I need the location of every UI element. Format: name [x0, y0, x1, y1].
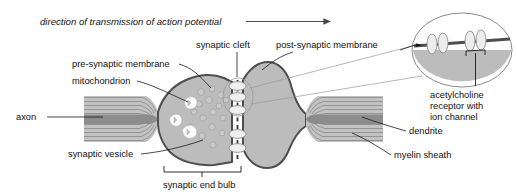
diagram-canvas: direction of transmission of action pote…: [0, 0, 517, 196]
inset-receptor-1: [427, 34, 437, 54]
dendrite-core: [306, 115, 383, 125]
cleft-receptor-2: [229, 93, 246, 102]
inset-receptor-4: [476, 30, 486, 50]
label-axon: axon: [16, 112, 36, 122]
label-pre-synaptic-membrane: pre-synaptic membrane: [72, 59, 170, 69]
cleft-receptor-4: [229, 130, 246, 139]
cleft-receptor-5: [229, 144, 246, 153]
label-mitochondrion: mitochondrion: [72, 76, 130, 86]
mitochondrion-1: [184, 97, 197, 109]
axon-structure: [84, 96, 158, 142]
inset-receptor-3: [465, 31, 475, 51]
label-dendrite: dendrite: [409, 126, 443, 136]
cleft-receptor-3: [229, 106, 246, 115]
label-synaptic-end-bulb: synaptic end bulb: [163, 180, 235, 190]
label-acetylcholine-line3: ion channel: [430, 112, 478, 122]
inset-receptor-2: [438, 33, 448, 53]
label-acetylcholine-line2: receptor with: [430, 101, 483, 111]
label-myelin-sheath: myelin sheath: [394, 150, 451, 160]
label-acetylcholine-line1: acetylcholine: [430, 90, 484, 100]
label-post-synaptic-membrane: post-synaptic membrane: [276, 40, 378, 50]
dendrite-structure: [306, 96, 383, 142]
cleft-receptor-1: [229, 82, 246, 91]
label-synaptic-cleft: synaptic cleft: [196, 40, 250, 50]
label-synaptic-vesicle: synaptic vesicle: [68, 149, 133, 159]
synapse-diagram: direction of transmission of action pote…: [0, 0, 517, 196]
label-acetylcholine-receptor: acetylcholine receptor with ion channel: [430, 90, 484, 122]
mitochondrion-3: [183, 125, 197, 138]
axon-core: [84, 115, 158, 125]
direction-caption-text: direction of transmission of action pote…: [40, 16, 222, 27]
